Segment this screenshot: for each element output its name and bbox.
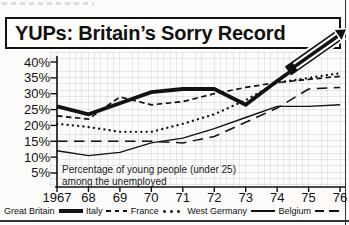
- x-tick-label: 1967: [43, 190, 72, 205]
- y-tick-label: 20%: [24, 118, 50, 133]
- y-tick-label: 30%: [24, 86, 50, 101]
- legend-item-great-britain: Great Britain: [4, 206, 83, 216]
- legend-item-italy: Italy: [86, 206, 128, 216]
- legend-label-italy: Italy: [86, 206, 103, 216]
- page-bottom-rule: [0, 220, 349, 222]
- chart-title-box: YUPs: Britain’s Sorry Record: [5, 17, 341, 49]
- x-tick-label: 71: [176, 190, 190, 205]
- y-tick-label: 5%: [31, 165, 50, 180]
- y-tick-label: 15%: [24, 134, 50, 149]
- legend-label-great-britain: Great Britain: [4, 206, 55, 216]
- legend-item-belgium: Belgium: [278, 206, 342, 216]
- legend-label-belgium: Belgium: [278, 206, 311, 216]
- x-tick-label: 70: [144, 190, 158, 205]
- y-tick-label: 35%: [24, 70, 50, 85]
- x-tick-label: 68: [81, 190, 95, 205]
- chart-legend: Great Britain Italy France West Germany …: [4, 206, 342, 216]
- x-tick-label: 72: [207, 190, 221, 205]
- legend-swatch-france: [163, 210, 184, 213]
- chart-annotation: Percentage of young people (under 25) am…: [62, 164, 236, 187]
- legend-item-west-germany: West Germany: [187, 206, 275, 216]
- y-tick-label: 40%: [24, 55, 50, 70]
- legend-label-west-germany: West Germany: [187, 206, 247, 216]
- y-tick-label: 25%: [24, 102, 50, 117]
- legend-item-france: France: [131, 206, 184, 216]
- legend-swatch-belgium: [315, 210, 342, 212]
- legend-swatch-west-germany: [251, 210, 275, 212]
- x-tick-label: 74: [270, 190, 284, 205]
- x-tick-label: 73: [238, 190, 252, 205]
- legend-swatch-italy: [106, 210, 127, 212]
- legend-swatch-great-britain: [59, 209, 83, 214]
- chart-title: YUPs: Britain’s Sorry Record: [15, 22, 285, 45]
- magazine-chart-page: YUPs: Britain’s Sorry Record 40%35%30%25…: [0, 0, 349, 225]
- cropped-page-text-fragment: [2, 2, 94, 5]
- x-tick-label: 75: [301, 190, 315, 205]
- legend-label-france: France: [131, 206, 159, 216]
- x-tick-label: 69: [113, 190, 127, 205]
- y-tick-label: 10%: [24, 150, 50, 165]
- annotation-line-1: Percentage of young people (under 25): [62, 164, 236, 176]
- annotation-line-2: among the unemployed: [62, 176, 236, 188]
